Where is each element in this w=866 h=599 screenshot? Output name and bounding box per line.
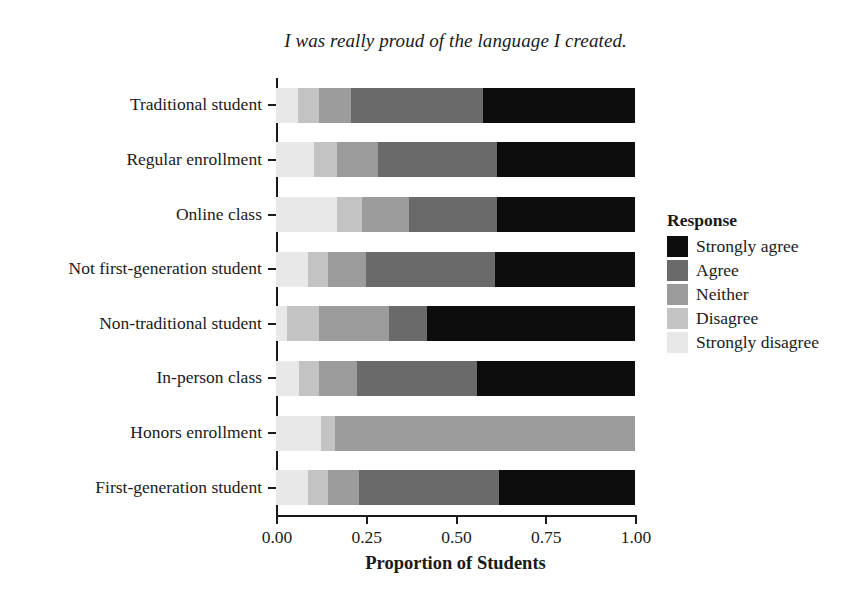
bar-segment [335,416,635,451]
bar-row [276,88,635,123]
bar-segment [497,197,635,232]
bar-segment [319,88,351,123]
bar-segment [276,252,308,287]
legend-swatch [667,332,688,353]
x-tick-label: 0.25 [332,527,402,548]
x-tick-label: 0.75 [511,527,581,548]
bar-row [276,306,635,341]
y-tick-label: In-person class [157,369,262,387]
x-tick-mark [635,517,637,524]
x-tick-mark [456,517,458,524]
legend-label: Neither [696,286,748,304]
stacked-bar-chart: I was really proud of the language I cre… [0,0,866,599]
bar-segment [276,197,337,232]
bar-segment [366,252,495,287]
bar-row [276,416,635,451]
bar-segment [359,470,499,505]
legend-item: Agree [667,258,819,282]
bar-segment [308,252,328,287]
y-tick-label: Non-traditional student [99,315,262,333]
x-tick-mark [276,517,278,524]
x-tick-mark [366,517,368,524]
y-tick-mark [268,487,276,489]
bar-segment [276,306,287,341]
bar-segment [389,306,427,341]
y-tick-label: Traditional student [130,96,262,114]
bar-segment [477,361,635,396]
legend-title: Response [667,211,819,230]
chart-legend: Response Strongly agreeAgreeNeitherDisag… [667,211,819,354]
x-tick-label: 0.50 [422,527,492,548]
bar-segment [357,361,477,396]
bar-segment [427,306,635,341]
x-tick-label: 0.00 [242,527,312,548]
bar-row [276,252,635,287]
legend-swatch [667,236,688,257]
legend-label: Disagree [696,310,758,328]
bar-segment [287,306,319,341]
y-tick-mark [268,377,276,379]
bar-segment [276,88,298,123]
bar-segment [319,361,357,396]
bar-segment [499,470,635,505]
y-tick-label: Honors enrollment [130,424,262,442]
bar-segment [276,142,314,177]
legend-swatch [667,260,688,281]
legend-label: Strongly disagree [696,334,819,352]
bar-segment [321,416,335,451]
bar-segment [276,470,308,505]
y-tick-mark [268,159,276,161]
y-tick-label: Not first-generation student [69,260,262,278]
bar-segment [328,252,366,287]
bar-segment [409,197,497,232]
bar-segment [497,142,635,177]
legend-item: Strongly disagree [667,330,819,354]
y-tick-label: Online class [176,206,262,224]
y-tick-mark [268,104,276,106]
bar-segment [328,470,359,505]
bar-segment [276,361,299,396]
y-tick-label: Regular enrollment [126,151,262,169]
bar-segment [299,361,319,396]
bar-segment [378,142,496,177]
y-tick-mark [268,323,276,325]
y-tick-mark [268,214,276,216]
plot-area [276,78,635,515]
y-tick-mark [268,432,276,434]
bar-segment [495,252,635,287]
legend-item: Strongly agree [667,234,819,258]
bar-segment [308,470,328,505]
bar-segment [351,88,483,123]
bar-segment [337,197,362,232]
bar-row [276,470,635,505]
legend-swatch [667,308,688,329]
legend-item: Disagree [667,306,819,330]
bar-segment [314,142,337,177]
y-tick-label: First-generation student [95,479,262,497]
bar-segment [276,416,321,451]
bar-row [276,361,635,396]
x-tick-mark [545,517,547,524]
x-tick-label: 1.00 [601,527,671,548]
bar-row [276,197,635,232]
y-tick-mark [268,268,276,270]
legend-label: Agree [696,262,739,280]
bar-segment [483,88,635,123]
legend-items: Strongly agreeAgreeNeitherDisagreeStrong… [667,234,819,354]
bar-segment [319,306,389,341]
chart-title: I was really proud of the language I cre… [276,30,635,52]
legend-item: Neither [667,282,819,306]
bar-segment [337,142,378,177]
legend-label: Strongly agree [696,238,799,256]
legend-swatch [667,284,688,305]
bar-row [276,142,635,177]
bar-segment [362,197,409,232]
bar-segment [298,88,320,123]
x-axis-title: Proportion of Students [276,553,635,574]
